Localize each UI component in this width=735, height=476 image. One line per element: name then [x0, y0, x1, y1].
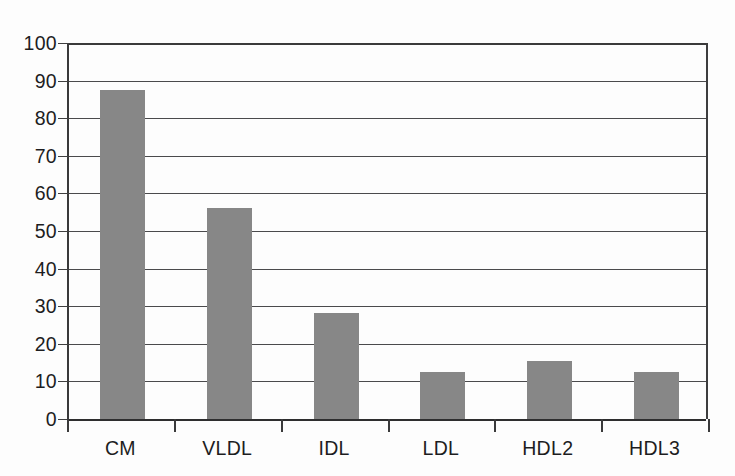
- gridline-30: [69, 306, 706, 307]
- y-tick-mark-20: [58, 344, 69, 345]
- y-tick-mark-50: [58, 231, 69, 232]
- bar-hdl2: [527, 361, 572, 419]
- bar-idl: [314, 313, 359, 419]
- y-tick-mark-100: [58, 43, 69, 44]
- y-axis-label-50: 50: [0, 220, 57, 243]
- x-axis-label-ldl: LDL: [423, 437, 460, 460]
- x-axis-label-cm: CM: [105, 437, 136, 460]
- gridline-20: [69, 344, 706, 345]
- y-axis-label-10: 10: [0, 370, 57, 393]
- bar-vldl: [207, 208, 252, 419]
- y-axis-label-60: 60: [0, 182, 57, 205]
- y-axis-tick-labels: 1009080706050403020100: [0, 43, 57, 419]
- gridline-80: [69, 118, 706, 119]
- y-axis-label-20: 20: [0, 332, 57, 355]
- y-axis-label-30: 30: [0, 295, 57, 318]
- x-axis-label-idl: IDL: [318, 437, 349, 460]
- bar-cm: [100, 90, 145, 419]
- x-tick-mark-5: [601, 419, 603, 432]
- x-tick-mark-2: [281, 419, 283, 432]
- bar-ldl: [420, 372, 465, 419]
- x-axis-label-vldl: VLDL: [202, 437, 252, 460]
- x-tick-mark-3: [388, 419, 390, 432]
- x-axis-label-hdl3: HDL3: [629, 437, 680, 460]
- y-axis-label-80: 80: [0, 107, 57, 130]
- plot-area: [67, 43, 708, 419]
- y-axis-label-70: 70: [0, 144, 57, 167]
- y-tick-mark-90: [58, 81, 69, 82]
- gridline-10: [69, 381, 706, 382]
- y-axis-label-90: 90: [0, 69, 57, 92]
- x-tick-mark-1: [174, 419, 176, 432]
- gridline-50: [69, 231, 706, 232]
- y-tick-mark-70: [58, 156, 69, 157]
- x-tick-mark-6: [708, 419, 710, 432]
- gridline-40: [69, 269, 706, 270]
- y-tick-mark-30: [58, 306, 69, 307]
- gridline-100: [69, 43, 706, 45]
- x-axis-label-hdl2: HDL2: [522, 437, 573, 460]
- bar-hdl3: [634, 372, 679, 419]
- gridline-70: [69, 156, 706, 157]
- bar-chart-figure: 1009080706050403020100 CMVLDLIDLLDLHDL2H…: [0, 0, 735, 476]
- gridline-90: [69, 81, 706, 82]
- y-tick-mark-10: [58, 381, 69, 382]
- y-tick-mark-80: [58, 118, 69, 119]
- gridline-60: [69, 193, 706, 194]
- y-axis-label-40: 40: [0, 257, 57, 280]
- x-tick-mark-0: [67, 419, 69, 432]
- x-tick-mark-4: [494, 419, 496, 432]
- y-tick-mark-60: [58, 193, 69, 194]
- y-tick-mark-40: [58, 269, 69, 270]
- y-axis-label-100: 100: [0, 32, 57, 55]
- y-axis-label-0: 0: [0, 408, 57, 431]
